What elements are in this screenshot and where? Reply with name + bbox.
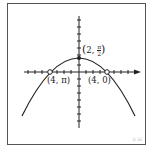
left-point [48, 70, 53, 75]
x-axis-arrow-icon [134, 70, 141, 75]
corner-mark: ⅱ ⅲ [132, 136, 142, 142]
vertex-label: (2, π 2 ) [82, 43, 105, 57]
right-point-label: (4, 0) [88, 75, 111, 85]
left-point-label: (4, π) [47, 75, 70, 85]
right-point [105, 70, 110, 75]
graph [0, 0, 154, 152]
vertex-point [77, 56, 81, 60]
